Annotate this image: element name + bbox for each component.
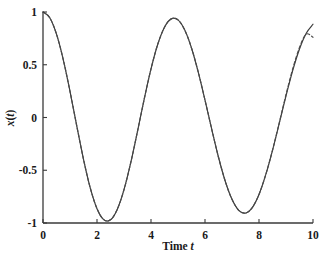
chart-background	[0, 0, 323, 257]
y-tick-label: 0	[31, 112, 37, 124]
x-tick-label: 6	[202, 229, 208, 241]
x-tick-label: 0	[40, 229, 46, 241]
x-tick-label: 8	[256, 229, 262, 241]
y-tick-label: 1	[31, 6, 37, 18]
y-tick-label: -1	[27, 217, 37, 229]
x-tick-label: 10	[307, 229, 319, 241]
x-tick-label: 2	[94, 229, 100, 241]
y-tick-label: 0.5	[23, 59, 38, 71]
x-tick-label: 4	[148, 229, 154, 241]
y-axis-title: x(t)	[4, 110, 17, 128]
y-tick-label: -0.5	[19, 164, 37, 176]
x-axis-title: Time t	[162, 240, 194, 252]
line-chart: 0246810 -1-0.500.51 Time t x(t)	[0, 0, 323, 257]
chart-figure: 0246810 -1-0.500.51 Time t x(t)	[0, 0, 323, 257]
